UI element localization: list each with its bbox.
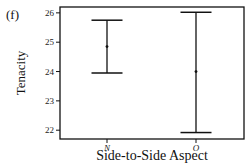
plot-frame [60, 7, 244, 139]
y-tick-label: 24 [45, 67, 55, 77]
y-tick-label: 23 [45, 96, 55, 106]
x-tick-label: N [103, 143, 111, 153]
y-tick-label: 22 [45, 125, 54, 135]
y-tick-label: 25 [45, 37, 55, 47]
mean-marker [106, 45, 109, 48]
mean-marker [195, 70, 198, 73]
y-tick-label: 26 [45, 8, 55, 18]
x-tick-label: O [193, 143, 200, 153]
errorbar-chart: 2223242526 NO [0, 0, 248, 167]
